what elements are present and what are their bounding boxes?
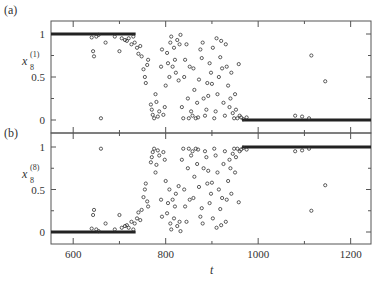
y-tick-label: 0.5 xyxy=(31,184,45,196)
data-point xyxy=(211,46,214,49)
y-axis-label: x xyxy=(21,167,28,181)
data-point xyxy=(92,55,95,58)
data-point xyxy=(162,151,165,154)
data-point xyxy=(208,62,211,65)
data-point xyxy=(224,43,227,46)
data-point xyxy=(201,222,204,225)
data-point xyxy=(135,46,138,49)
data-point xyxy=(127,226,130,229)
data-point xyxy=(99,147,102,150)
data-point xyxy=(207,94,210,97)
data-point xyxy=(144,182,147,185)
panel-frame xyxy=(51,133,371,244)
data-point xyxy=(118,50,121,53)
y-tick-label: 1 xyxy=(40,28,46,40)
data-point xyxy=(146,63,149,66)
data-point xyxy=(209,192,212,195)
data-point xyxy=(176,38,179,41)
data-point xyxy=(222,162,225,165)
data-point xyxy=(215,226,218,229)
data-point xyxy=(294,114,297,117)
data-point xyxy=(219,56,222,59)
data-point xyxy=(294,150,297,153)
data-point xyxy=(156,149,159,152)
data-point xyxy=(165,51,168,54)
data-point xyxy=(91,213,94,216)
data-point xyxy=(192,196,195,199)
data-point xyxy=(166,202,169,205)
data-point xyxy=(130,43,133,46)
data-point xyxy=(154,171,157,174)
data-point xyxy=(143,188,146,191)
data-point xyxy=(146,200,149,203)
data-point xyxy=(202,97,205,100)
data-point xyxy=(168,75,171,78)
data-point xyxy=(169,41,172,44)
data-point xyxy=(234,156,237,159)
data-point xyxy=(227,84,230,87)
data-point xyxy=(173,58,176,61)
x-tick-label: 600 xyxy=(65,248,82,260)
data-point xyxy=(149,161,152,164)
data-point xyxy=(201,41,204,44)
data-point xyxy=(324,184,327,187)
data-point xyxy=(193,175,196,178)
data-point xyxy=(180,106,183,109)
data-point xyxy=(217,75,220,78)
data-point xyxy=(300,149,303,152)
data-point xyxy=(153,117,156,120)
data-point xyxy=(208,202,211,205)
data-point xyxy=(140,55,143,58)
data-point xyxy=(140,208,143,211)
data-point xyxy=(190,154,193,157)
data-point xyxy=(166,62,169,65)
data-point xyxy=(186,97,189,100)
data-point xyxy=(172,46,175,49)
data-point xyxy=(147,58,150,61)
data-point xyxy=(169,222,172,225)
data-point xyxy=(137,211,140,214)
data-point xyxy=(215,37,218,40)
data-point xyxy=(144,81,147,84)
data-point xyxy=(216,93,219,96)
panel-frame xyxy=(51,21,371,133)
data-point xyxy=(168,188,171,191)
data-point xyxy=(104,41,107,44)
x-tick-label: 1000 xyxy=(247,248,270,260)
data-point xyxy=(193,88,196,91)
chart-container: 00.51x8(1)00.51x8(8)60080010001200 (a) (… xyxy=(0,0,381,281)
y-tick-label: 0 xyxy=(40,226,46,238)
data-point xyxy=(92,208,95,211)
y-tick-label: 0 xyxy=(40,114,46,126)
data-point xyxy=(153,147,156,150)
data-point xyxy=(233,147,236,150)
data-point xyxy=(184,205,187,208)
x-tick-label: 1200 xyxy=(340,248,363,260)
data-point xyxy=(139,44,142,47)
data-point xyxy=(154,93,157,96)
data-point xyxy=(233,93,236,96)
data-point xyxy=(120,37,123,40)
data-point xyxy=(183,188,186,191)
data-point xyxy=(151,113,154,116)
data-point xyxy=(220,39,223,42)
data-point xyxy=(213,147,216,150)
x-tick-label: 800 xyxy=(157,248,174,260)
data-point xyxy=(178,43,181,46)
data-point xyxy=(178,220,181,223)
data-point xyxy=(162,113,165,116)
data-point xyxy=(211,217,214,220)
data-point xyxy=(179,33,182,36)
data-point xyxy=(310,209,313,212)
data-point xyxy=(133,222,136,225)
data-point xyxy=(91,50,94,53)
data-point xyxy=(155,100,158,103)
y-axis-label-sup: (1) xyxy=(30,50,40,59)
data-point xyxy=(233,117,236,120)
data-point xyxy=(196,162,199,165)
data-point xyxy=(185,220,188,223)
data-point xyxy=(234,108,237,111)
data-point xyxy=(205,108,208,111)
data-point xyxy=(156,115,159,118)
data-point xyxy=(139,219,142,222)
